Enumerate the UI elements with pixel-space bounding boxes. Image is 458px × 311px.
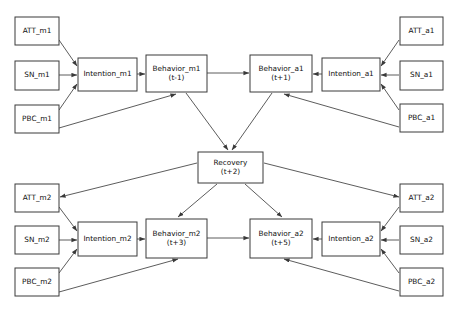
edge-recovery-behavior_a2 [245,184,282,217]
edge-pbc_a2-intention_a2 [381,249,399,273]
node-att_a1[interactable]: ATT_a1 [400,17,443,45]
node-label-intention_m1-0: Intention_m1 [83,69,131,78]
node-label-sn_a1-0: SN_a1 [410,70,433,79]
edge-att_a2-intention_a2 [381,207,399,231]
node-label-behavior_a2-0: Behavior_a2 [258,229,303,238]
node-label-pbc_a1-0: PBC_a1 [408,113,435,122]
edge-att_m2-intention_m2 [59,207,77,231]
edge-att_a1-intention_a1 [381,40,399,66]
node-label-intention_a1-0: Intention_a1 [328,69,374,78]
node-label-behavior_a2-1: (t+5) [271,238,290,247]
node-label-sn_m2-0: SN_m2 [24,235,50,244]
node-intention_m2[interactable]: Intention_m2 [78,222,137,256]
node-sn_m2[interactable]: SN_m2 [15,226,59,254]
node-label-att_m2-0: ATT_m2 [23,193,52,202]
edge-pbc_m2-behavior_m2 [59,259,178,292]
node-pbc_a1[interactable]: PBC_a1 [400,104,443,132]
edge-pbc_a1-intention_a1 [381,84,399,110]
node-label-sn_a2-0: SN_a2 [410,235,433,244]
node-label-behavior_m2-1: (t+3) [167,238,186,247]
node-intention_m1[interactable]: Intention_m1 [78,58,137,91]
edge-pbc_m1-behavior_m1 [59,94,176,128]
node-label-sn_m1-0: SN_m1 [24,70,50,79]
node-sn_m1[interactable]: SN_m1 [15,61,59,90]
node-label-behavior_m2-0: Behavior_m2 [153,229,201,238]
path-diagram-canvas: ATT_m1SN_m1PBC_m1Intention_m1Behavior_m1… [0,0,458,311]
edge-pbc_m2-intention_m2 [59,249,77,273]
node-att_a2[interactable]: ATT_a2 [400,184,443,212]
edge-pbc_m1-intention_m1 [59,84,77,110]
node-label-att_a2-0: ATT_a2 [409,193,435,202]
node-label-recovery-1: (t+2) [221,167,240,176]
node-label-pbc_m1-0: PBC_m1 [22,114,52,123]
node-label-att_a1-0: ATT_a1 [409,26,435,35]
node-att_m1[interactable]: ATT_m1 [15,17,59,45]
edge-att_m1-intention_m1 [59,40,77,66]
node-sn_a1[interactable]: SN_a1 [400,61,443,90]
edge-recovery-att_a2 [264,163,399,197]
node-behavior_m2[interactable]: Behavior_m2(t+3) [146,219,207,258]
node-label-intention_m2-0: Intention_m2 [83,234,131,243]
node-pbc_m1[interactable]: PBC_m1 [15,105,59,133]
edge-recovery-behavior_m2 [178,184,217,217]
edge-pbc_a2-behavior_a2 [284,259,399,291]
node-label-behavior_a1-1: (t+1) [271,73,290,82]
edge-behavior_m1-recovery [186,93,228,150]
node-label-pbc_m2-0: PBC_m2 [22,277,52,286]
edge-pbc_a1-behavior_a1 [284,94,399,127]
diagram-svg: ATT_m1SN_m1PBC_m1Intention_m1Behavior_m1… [0,0,458,311]
node-label-behavior_m1-1: (t-1) [169,73,185,82]
node-behavior_m1[interactable]: Behavior_m1(t-1) [146,55,207,92]
nodes-group: ATT_m1SN_m1PBC_m1Intention_m1Behavior_m1… [15,17,443,296]
node-behavior_a2[interactable]: Behavior_a2(t+5) [250,219,312,258]
node-behavior_a1[interactable]: Behavior_a1(t+1) [250,55,312,92]
node-label-behavior_m1-0: Behavior_m1 [153,64,201,73]
node-label-intention_a2-0: Intention_a2 [328,234,374,243]
edge-recovery-att_m2 [60,163,197,197]
node-label-pbc_a2-0: PBC_a2 [408,277,435,286]
node-pbc_a2[interactable]: PBC_a2 [400,268,443,296]
node-att_m2[interactable]: ATT_m2 [15,184,59,212]
node-intention_a2[interactable]: Intention_a2 [322,222,380,256]
edge-behavior_a1-recovery [232,93,272,150]
node-sn_a2[interactable]: SN_a2 [400,226,443,254]
node-label-recovery-0: Recovery [214,158,249,167]
node-label-att_m1-0: ATT_m1 [23,26,52,35]
node-recovery[interactable]: Recovery(t+2) [198,152,263,183]
node-intention_a1[interactable]: Intention_a1 [322,58,380,91]
node-pbc_m2[interactable]: PBC_m2 [15,268,59,296]
node-label-behavior_a1-0: Behavior_a1 [258,64,303,73]
